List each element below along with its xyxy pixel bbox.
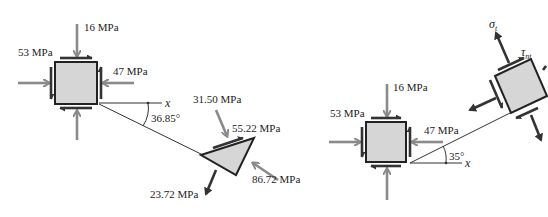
shear-55-22-label: 55.22 MPa: [232, 122, 280, 134]
angle-arc-icon: [443, 146, 446, 163]
rotated-stress-element: σt τnt: [470, 17, 547, 140]
sigma-t-top-arrow-icon: [496, 33, 509, 63]
wedge-free-body: 31.50 MPa 55.22 MPa 86.72 MPa 23.72 MPa: [150, 93, 300, 200]
sigma-t-label: σt: [489, 17, 498, 33]
sigma-x-label: 47 MPa: [113, 65, 148, 77]
angle-label: 36.85°: [151, 112, 180, 124]
stress-31-50-arrow-icon: [216, 110, 227, 136]
sigma-n-left-arrow-icon: [470, 98, 496, 110]
element-square: [55, 62, 97, 104]
tau-xy-label: 53 MPa: [330, 107, 365, 119]
sigma-y-label: 16 MPa: [393, 81, 428, 93]
left-stress-element: 16 MPa 53 MPa 47 MPa: [18, 21, 148, 140]
stress-23-72-label: 23.72 MPa: [150, 188, 198, 200]
stress-23-72-arrow-icon: [206, 170, 216, 194]
tau-xy-label: 53 MPa: [18, 46, 53, 58]
left-angle-reference: x 36.85°: [99, 96, 203, 155]
angle-label: 35°: [449, 150, 464, 162]
element-square: [366, 122, 406, 162]
angle-arc-icon: [143, 103, 148, 126]
stress-31-50-label: 31.50 MPa: [193, 93, 241, 105]
sigma-t-bottom-arrow-icon: [531, 115, 541, 140]
sigma-y-label: 16 MPa: [84, 21, 119, 33]
tau-nt-right-arrow-icon: [543, 66, 546, 70]
x-axis-label: x: [164, 96, 171, 110]
stress-transformation-diagram: 16 MPa 53 MPa 47 MPa x 36.85° 31.50 MPa …: [0, 0, 548, 217]
x-axis-label: x: [464, 156, 471, 170]
tau-nt-label: τnt: [521, 45, 532, 61]
sigma-x-label: 47 MPa: [424, 124, 459, 136]
normal-86-72-label: 86.72 MPa: [252, 173, 300, 185]
right-stress-element: 16 MPa 53 MPa 47 MPa: [329, 81, 459, 200]
